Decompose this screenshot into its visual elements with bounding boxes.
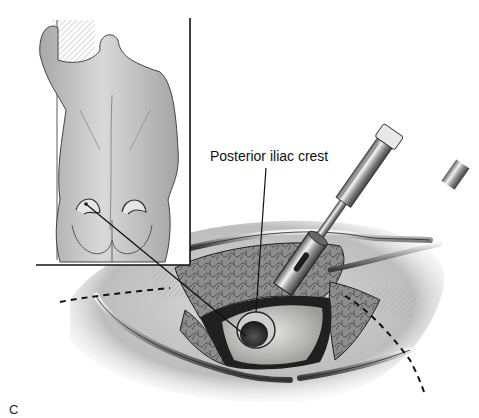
posterior-iliac-crest-label: Posterior iliac crest	[210, 148, 328, 164]
trephine-handle-cap	[441, 159, 469, 189]
surgical-illustration	[0, 0, 479, 418]
inset-panel	[36, 0, 190, 265]
panel-letter: C	[9, 402, 18, 417]
trephine-handle	[336, 138, 392, 207]
